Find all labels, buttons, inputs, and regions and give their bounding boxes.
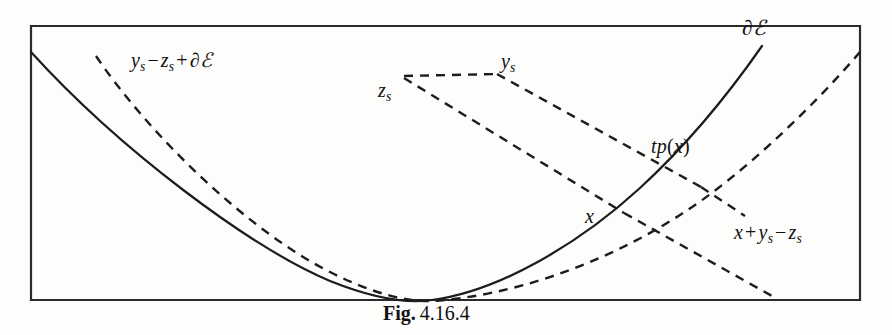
term-z: z — [161, 49, 169, 71]
label-tp-open: ( — [667, 135, 674, 157]
label-ys: ys — [501, 51, 515, 74]
connector-tangent-cross — [701, 187, 745, 216]
caption-number: 4.16.4 — [416, 302, 470, 324]
term2-x: x — [734, 221, 743, 243]
label-tp-of-x: tp(x) — [651, 136, 690, 156]
caption-label: Fig. — [383, 302, 416, 324]
op-plus: + — [174, 49, 189, 71]
op2-plus: + — [743, 221, 758, 243]
label-x: x — [585, 206, 594, 226]
label-boundary-e-script: ℰ — [753, 16, 766, 40]
label-tp-x: x — [674, 135, 683, 157]
term-y: y — [131, 49, 140, 71]
connector-zs-to-ys — [404, 74, 497, 76]
figure-caption: Fig.4.16.4 — [383, 303, 470, 323]
label-x-plus-ys-minus-zs: x+ys−zs — [734, 222, 802, 245]
label-zs-base: z — [378, 79, 386, 101]
term2-z-sub: s — [796, 231, 801, 246]
label-boundary-e-del: ∂ — [742, 16, 753, 40]
term-script-e: ℰ — [200, 48, 212, 72]
label-tp-close: ) — [683, 135, 690, 157]
connector-ys-to-tangent — [497, 74, 701, 187]
label-tp-p: p — [657, 135, 667, 157]
op-minus: − — [145, 49, 160, 71]
label-x-base: x — [585, 205, 594, 227]
term-del: ∂ — [190, 49, 200, 71]
term2-y: y — [759, 221, 768, 243]
label-zs-sub: s — [386, 89, 391, 104]
figure-container: ∂ℰ ys−zs+∂ℰ ys zs tp(x) x x+ys−zs Fig.4.… — [0, 0, 892, 335]
connector-zs-to-x — [404, 78, 624, 213]
label-ys-minus-zs-plus-de: ys−zs+∂ℰ — [131, 50, 212, 73]
dashed-parabola-curve — [96, 52, 860, 301]
op2-minus: − — [773, 221, 788, 243]
solid-parabola-curve — [31, 46, 762, 301]
label-zs: zs — [378, 80, 391, 103]
label-ys-sub: s — [510, 60, 515, 75]
label-boundary-e: ∂ℰ — [742, 18, 766, 39]
label-ys-base: y — [501, 50, 510, 72]
